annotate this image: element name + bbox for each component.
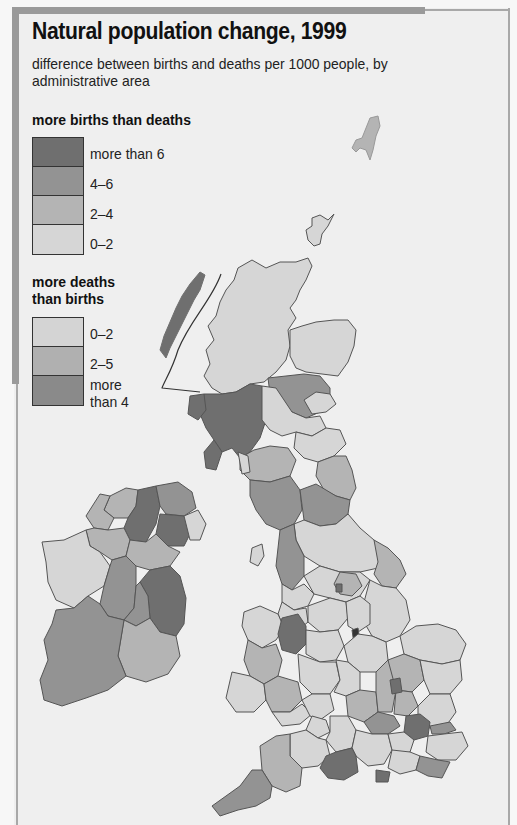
legend-heading-deaths-line1: more deaths	[32, 274, 115, 290]
kent	[426, 732, 468, 760]
derbyshire	[308, 598, 348, 632]
isle-of-man	[250, 544, 264, 566]
legend-swatches-deaths	[32, 317, 84, 406]
lincolnshire	[364, 580, 410, 642]
swatch-deaths-0-2	[33, 318, 83, 347]
south-wales-valleys	[264, 676, 302, 712]
nottinghamshire	[346, 596, 370, 632]
hertfordshire	[394, 690, 418, 716]
swatch-births-2-4	[33, 196, 83, 225]
legend-label-births-1: 4–6	[90, 176, 113, 191]
cornwall	[212, 770, 272, 816]
west-sussex	[388, 750, 420, 774]
bedfordshire-dark	[390, 678, 402, 694]
map-title: Natural population change, 1999	[32, 18, 346, 45]
swatch-deaths-more-than-4	[33, 376, 83, 405]
map-subtitle: difference between births and deaths per…	[32, 55, 423, 89]
east-yorkshire	[374, 540, 406, 588]
legend-label-deaths-2-line2: than 4	[90, 394, 129, 409]
swatch-births-0-2	[33, 225, 83, 254]
legend-label-births-3: 0–2	[90, 236, 113, 251]
legend-heading-births: more births than deaths	[32, 112, 191, 128]
legend-label-deaths-0: 0–2	[90, 326, 113, 341]
orkney	[306, 214, 334, 246]
grampian	[290, 320, 356, 376]
city-small-dark	[336, 584, 342, 592]
hampshire	[352, 730, 392, 766]
shetland	[352, 116, 380, 160]
cumbria	[250, 476, 302, 530]
legend-label-deaths-2-line1: more	[90, 377, 122, 392]
ni-east	[156, 482, 196, 516]
wiltshire	[326, 716, 356, 752]
staffordshire	[306, 630, 344, 662]
legend-label-births-0: more than 6	[90, 146, 164, 161]
isle-of-wight	[376, 770, 390, 782]
suffolk	[420, 660, 462, 694]
north-yorkshire	[294, 514, 384, 572]
swatch-deaths-2-5	[33, 347, 83, 376]
legend-heading-deaths-line2: than births	[32, 291, 104, 307]
highland	[204, 258, 312, 394]
legend-label-deaths-1: 2–5	[90, 356, 113, 371]
powys-dark	[278, 614, 306, 654]
legend-swatches-births	[32, 137, 84, 255]
legend-label-births-2: 2–4	[90, 206, 113, 221]
swatch-births-4-6	[33, 167, 83, 196]
swatch-births-more-than-6	[33, 138, 83, 167]
